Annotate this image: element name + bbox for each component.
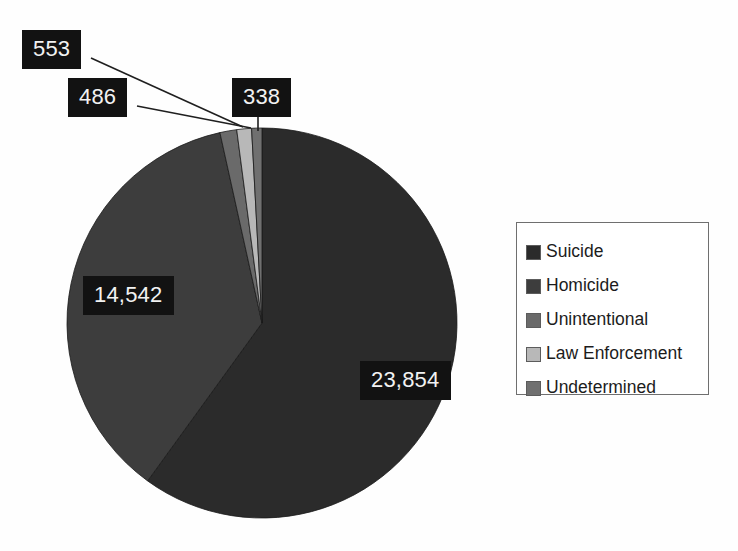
data-label-undetermined: 338 <box>232 78 291 117</box>
legend-item-undetermined[interactable]: Undetermined <box>526 371 708 405</box>
legend-swatch-unintentional <box>526 313 541 328</box>
legend-label-law-enforcement: Law Enforcement <box>546 345 682 363</box>
legend-label-suicide: Suicide <box>546 243 603 261</box>
data-label-suicide: 23,854 <box>360 361 451 400</box>
legend-item-unintentional[interactable]: Unintentional <box>526 303 708 337</box>
legend-swatch-law-enforcement <box>526 347 541 362</box>
data-label-homicide: 14,542 <box>83 276 174 315</box>
legend-item-homicide[interactable]: Homicide <box>526 269 708 303</box>
page-bleed-text <box>330 28 334 45</box>
legend-label-homicide: Homicide <box>546 277 619 295</box>
pie-slice-group <box>67 128 457 518</box>
legend-label-undetermined: Undetermined <box>546 379 656 397</box>
data-label-unintentional: 553 <box>22 30 81 69</box>
legend-item-law-enforcement[interactable]: Law Enforcement <box>526 337 708 371</box>
legend-label-unintentional: Unintentional <box>546 311 648 329</box>
legend-swatch-homicide <box>526 279 541 294</box>
pie-graphic <box>66 127 458 519</box>
legend-item-suicide[interactable]: Suicide <box>526 235 708 269</box>
pie-chart-figure: 553 486 338 14,542 23,854 Suicide Homici… <box>0 0 738 551</box>
legend-swatch-suicide <box>526 245 541 260</box>
legend-swatch-undetermined <box>526 381 541 396</box>
data-label-law-enforcement: 486 <box>68 78 127 117</box>
chart-legend: Suicide Homicide Unintentional Law Enfor… <box>516 222 709 395</box>
pie-svg <box>66 127 458 519</box>
